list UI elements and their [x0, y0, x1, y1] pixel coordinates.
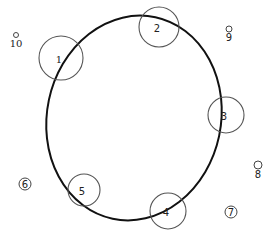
- circle-label: 3: [221, 111, 227, 122]
- circle-label: 5: [79, 186, 85, 197]
- marker-8: 8: [254, 161, 262, 180]
- marker-label: 8: [255, 169, 261, 180]
- marker-circle: [254, 161, 262, 169]
- numbered-circle-1: 1: [39, 36, 83, 80]
- small-markers-group: 678910: [10, 26, 262, 218]
- marker-label: 6: [22, 179, 28, 190]
- marker-label: 10: [10, 38, 23, 49]
- marker-6: 6: [19, 178, 31, 190]
- marker-10: 10: [10, 33, 23, 49]
- circle-label: 1: [56, 54, 62, 65]
- numbered-circle-5: 5: [68, 174, 100, 206]
- diagram-canvas: 12345 678910: [0, 0, 278, 244]
- large-circles-group: 12345: [39, 7, 244, 229]
- numbered-circle-4: 4: [150, 193, 186, 229]
- marker-7: 7: [225, 206, 237, 218]
- circle-label: 4: [163, 207, 169, 218]
- marker-label: 9: [226, 32, 232, 43]
- numbered-circle-3: 3: [208, 97, 244, 133]
- numbered-circle-2: 2: [139, 7, 179, 47]
- marker-9: 9: [226, 26, 232, 43]
- marker-label: 7: [228, 207, 234, 218]
- circle-label: 2: [154, 23, 160, 34]
